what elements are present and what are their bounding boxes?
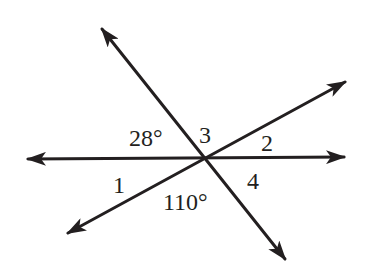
angle-label-110-degrees: 110° [163,189,208,215]
angle-label-2: 2 [261,130,273,156]
diagram-svg: 28° 3 2 1 110° 4 [0,0,370,271]
horizontal-line [28,157,344,159]
angle-label-4: 4 [247,168,259,194]
angle-label-1: 1 [113,172,125,198]
angle-label-28-degrees: 28° [129,125,163,151]
angle-label-3: 3 [199,122,211,148]
angles-diagram: 28° 3 2 1 110° 4 [0,0,370,271]
